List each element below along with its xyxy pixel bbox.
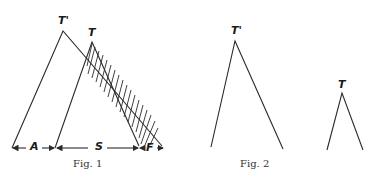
dimension-s: S [57,140,138,153]
diagram-canvas: T' T A S F Fig. 1 T' T Fig. 2 [0,0,374,177]
label-t-fig2: T [338,78,347,91]
caption-fig-2: Fig. 2 [240,158,269,169]
large-peak [211,41,283,149]
label-t-prime-fig2: T' [231,24,242,37]
outer-triangle [12,31,162,148]
small-peak [327,93,363,150]
label-s: S [95,140,103,153]
caption-fig-1: Fig. 1 [73,158,102,169]
hatched-region [87,44,158,145]
figure-1: T' T A S F Fig. 1 [12,14,163,169]
label-f: F [146,141,154,154]
label-t-fig1: T [88,26,97,39]
figure-2: T' T Fig. 2 [211,24,363,169]
label-a: A [29,140,39,153]
label-t-prime-fig1: T' [58,14,69,27]
dimension-a: A [13,140,54,153]
